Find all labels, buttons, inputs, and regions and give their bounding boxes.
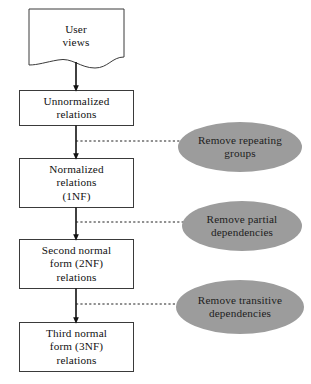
normalization-flowchart: [0, 0, 311, 384]
annotation-remove-repeating-groups-shape: [178, 122, 302, 172]
node-user-views-shape: [29, 9, 124, 68]
node-normalized-relations-1nf-shape: [20, 159, 134, 208]
node-unnormalized-relations-shape: [20, 91, 134, 126]
annotation-remove-partial-dependencies-shape: [182, 201, 302, 251]
annotation-remove-transitive-dependencies-shape: [176, 280, 304, 334]
node-third-normal-form-3nf-shape: [20, 323, 134, 372]
node-second-normal-form-2nf-shape: [20, 240, 134, 289]
